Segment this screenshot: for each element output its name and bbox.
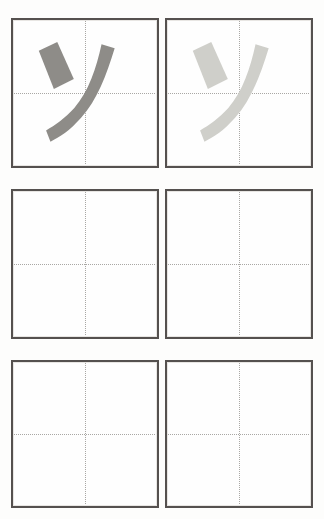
practice-cell-r1c2[interactable]: [165, 18, 313, 168]
practice-cell-r3c2[interactable]: practice-blank: [165, 360, 313, 508]
practice-cell-r3c1[interactable]: practice-blank: [11, 360, 159, 508]
practice-cell-r1c1[interactable]: [11, 18, 159, 168]
guide-line-horizontal: [13, 264, 157, 265]
guide-line-horizontal: [167, 434, 311, 435]
practice-cell-r2c2[interactable]: practice-blank: [165, 189, 313, 339]
guide-line-horizontal: [167, 264, 311, 265]
katakana-so-glyph-dark: [13, 20, 157, 166]
guide-line-horizontal: [13, 434, 157, 435]
practice-cell-r2c1[interactable]: practice-blank: [11, 189, 159, 339]
guide-line-vertical: [239, 191, 240, 337]
katakana-so-glyph-light: [167, 20, 311, 166]
stroke-1-short-diagonal: [193, 42, 228, 89]
stroke-1-short-diagonal: [39, 42, 74, 89]
katakana-practice-worksheet: practice-blank practice-blank practice-b…: [0, 0, 324, 519]
practice-grid: practice-blank practice-blank practice-b…: [11, 18, 313, 508]
guide-line-vertical: [85, 362, 86, 506]
guide-line-vertical: [239, 362, 240, 506]
guide-line-vertical: [85, 191, 86, 337]
